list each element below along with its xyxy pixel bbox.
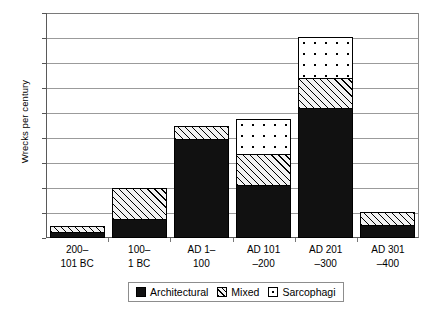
- x-tick-label-line: AD 1–: [170, 243, 232, 257]
- x-tick-label-line: 1 BC: [108, 257, 170, 271]
- x-tick-mark: [170, 238, 171, 242]
- bar-stack: [174, 126, 229, 239]
- x-tick-label: 200–101 BC: [46, 243, 108, 270]
- x-tick-label: AD 201–300: [295, 243, 357, 270]
- legend-item-architectural: Architectural: [136, 287, 208, 298]
- bar-stack: [360, 212, 415, 238]
- bar-segment-architectural: [298, 108, 353, 238]
- bar-stack: [298, 37, 353, 238]
- x-tick-label-line: AD 101: [233, 243, 295, 257]
- bar-segment-mixed: [174, 126, 229, 139]
- x-tick-label-line: 100–: [108, 243, 170, 257]
- bar-segment-mixed: [112, 188, 167, 219]
- bar-segment-architectural: [50, 232, 105, 238]
- bar-segment-sarcophagi: [298, 37, 353, 78]
- legend-label: Sarcophagi: [282, 287, 335, 298]
- y-axis-title: Wrecks per century: [19, 52, 30, 192]
- x-axis-labels: 200–101 BC100–1 BCAD 1–100AD 101–200AD 2…: [46, 243, 419, 277]
- bar-segment-mixed: [298, 78, 353, 108]
- bar-group: [298, 13, 353, 238]
- chart-legend: ArchitecturalMixedSarcophagi: [128, 282, 344, 302]
- x-tick-mark: [295, 238, 296, 242]
- bar-stack: [112, 188, 167, 238]
- bar-stack: [236, 119, 291, 238]
- x-tick-label: 100–1 BC: [108, 243, 170, 270]
- bar-segment-architectural: [236, 185, 291, 238]
- solid-black-swatch-icon: [136, 287, 146, 297]
- x-tick-label-line: 200–: [46, 243, 108, 257]
- bar-group: [174, 13, 229, 238]
- legend-item-sarcophagi: Sarcophagi: [268, 287, 335, 298]
- x-tick-label: AD 101–200: [233, 243, 295, 270]
- x-tick-label: AD 301–400: [357, 243, 419, 270]
- bar-segment-architectural: [112, 219, 167, 238]
- bar-segment-mixed: [360, 212, 415, 225]
- bar-segment-sarcophagi: [236, 119, 291, 153]
- bar-group: [236, 13, 291, 238]
- x-tick-mark: [357, 238, 358, 242]
- x-tick-label-line: AD 301: [357, 243, 419, 257]
- x-tick-label-line: 101 BC: [46, 257, 108, 271]
- bar-group: [360, 13, 415, 238]
- bar-segment-architectural: [174, 139, 229, 238]
- dotted-swatch-icon: [268, 287, 278, 297]
- x-tick-label-line: 100: [170, 257, 232, 271]
- bars-layer: [46, 13, 419, 238]
- x-tick-label: AD 1–100: [170, 243, 232, 270]
- x-tick-label-line: –200: [233, 257, 295, 271]
- bar-segment-architectural: [360, 225, 415, 238]
- bar-stack: [50, 226, 105, 238]
- x-tick-label-line: –300: [295, 257, 357, 271]
- stacked-bar-chart: Wrecks per century 024681012141618 200–1…: [0, 0, 430, 309]
- legend-label: Mixed: [231, 287, 259, 298]
- bar-group: [50, 13, 105, 238]
- bar-group: [112, 13, 167, 238]
- x-tick-mark: [108, 238, 109, 242]
- x-tick-mark: [233, 238, 234, 242]
- y-tick-mark: [42, 238, 46, 239]
- bar-segment-mixed: [236, 154, 291, 185]
- x-tick-label-line: –400: [357, 257, 419, 271]
- legend-label: Architectural: [150, 287, 208, 298]
- legend-item-mixed: Mixed: [217, 287, 259, 298]
- diagonal-hatch-swatch-icon: [217, 287, 227, 297]
- x-tick-label-line: AD 201: [295, 243, 357, 257]
